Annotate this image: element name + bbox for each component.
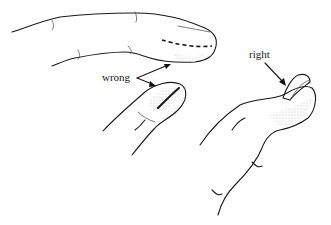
right-annotation: right	[249, 48, 286, 86]
arrow-to-top-finger	[137, 65, 168, 78]
arrow-to-right-finger	[265, 63, 283, 82]
right-label: right	[249, 48, 270, 60]
arrow-head-icon	[164, 64, 171, 69]
arrow-head-icon	[149, 81, 156, 87]
wrong-label: wrong	[102, 71, 131, 83]
finger-right	[200, 74, 315, 215]
wrong-cut-line	[162, 40, 212, 47]
nail-right	[283, 74, 310, 100]
nail-stipple	[170, 52, 205, 61]
finger-middle	[103, 82, 186, 155]
nail-stipple-right	[270, 98, 312, 126]
finger-top-left	[12, 12, 216, 66]
illustration: wrong right	[0, 0, 331, 225]
